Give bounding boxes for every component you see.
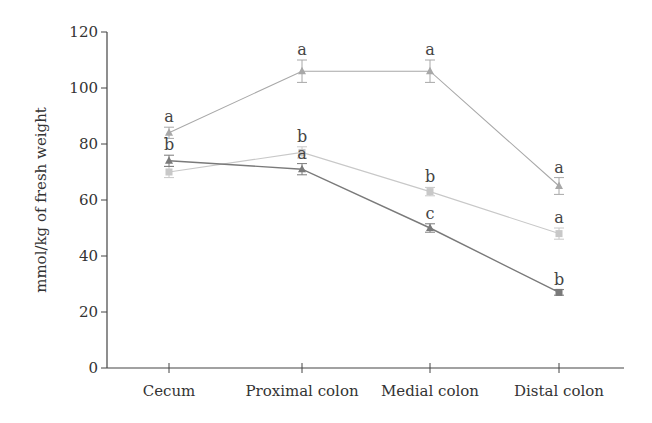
- y-axis-title: mmol/kg of fresh weight: [32, 107, 50, 293]
- y-tick-label: 120: [69, 23, 98, 41]
- series-group: [164, 60, 564, 296]
- significance-letter: a: [425, 40, 435, 59]
- y-tick-label: 100: [69, 79, 98, 97]
- y-tick-label: 80: [79, 135, 98, 153]
- line-chart: 020406080100120CecumProximal colonMedial…: [0, 0, 652, 423]
- significance-letter: a: [297, 40, 307, 59]
- x-tick-label: Medial colon: [381, 382, 479, 400]
- significance-letter: a: [164, 107, 174, 126]
- significance-letter: b: [164, 135, 174, 154]
- square-marker: [556, 289, 563, 296]
- square-marker: [427, 188, 434, 195]
- y-tick-label: 60: [79, 191, 98, 209]
- significance-letter: a: [554, 158, 564, 177]
- significance-letter: b: [554, 270, 564, 289]
- square-marker: [166, 169, 173, 176]
- x-tick-label: Distal colon: [514, 382, 604, 400]
- significance-letter: b: [425, 167, 435, 186]
- series-line: [169, 161, 559, 293]
- y-tick-label: 0: [88, 359, 98, 377]
- triangle-marker: [298, 67, 306, 75]
- series-3: [164, 147, 564, 239]
- x-tick-label: Cecum: [143, 382, 196, 400]
- significance-letter: c: [426, 204, 435, 223]
- square-marker: [556, 230, 563, 237]
- triangle-marker: [165, 156, 173, 164]
- triangle-marker: [426, 67, 434, 75]
- series-2: [164, 155, 564, 296]
- y-tick-label: 40: [79, 247, 98, 265]
- significance-letter: a: [554, 208, 564, 227]
- y-tick-label: 20: [79, 303, 98, 321]
- axes: 020406080100120CecumProximal colonMedial…: [32, 23, 624, 400]
- series-line: [169, 71, 559, 186]
- x-tick-label: Proximal colon: [245, 382, 359, 400]
- significance-letter: a: [297, 144, 307, 163]
- triangle-marker: [555, 182, 563, 190]
- series-1: [164, 60, 564, 194]
